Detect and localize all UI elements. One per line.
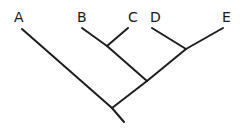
taxon-label-e: E xyxy=(222,10,231,24)
phylogenetic-tree-figure: A B C D E xyxy=(0,0,242,131)
branch-bcde xyxy=(112,81,147,108)
branch-de xyxy=(147,49,186,81)
taxon-label-c: C xyxy=(128,10,138,24)
branch-d xyxy=(152,28,186,49)
taxon-label-d: D xyxy=(150,10,161,24)
taxon-label-b: B xyxy=(77,10,87,24)
branch-c xyxy=(107,28,128,46)
branch-b xyxy=(82,28,107,46)
branch-root xyxy=(112,108,124,122)
branch-bc xyxy=(107,46,147,81)
taxon-label-a: A xyxy=(14,10,24,24)
branch-layer xyxy=(22,28,223,122)
tree-diagram-canvas xyxy=(0,0,242,131)
branch-e xyxy=(186,28,223,49)
